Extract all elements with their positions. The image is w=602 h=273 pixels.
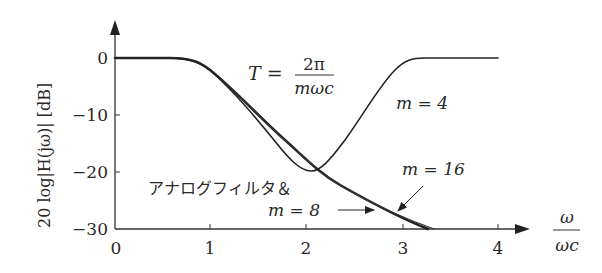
label-m8: m = 8	[268, 200, 320, 220]
period-numerator: 2π	[303, 54, 325, 74]
y-tick-minus20: −20	[72, 162, 108, 182]
x-tick-4: 4	[493, 238, 504, 258]
y-tick-labels: 0 −10 −20 −30	[72, 48, 108, 239]
arrow-m16-icon	[398, 186, 423, 211]
label-analog: アナログフィルタ＆	[148, 179, 292, 198]
y-axis-arrow-icon	[110, 20, 120, 35]
frequency-response-chart: 0 −10 −20 −30 0 1 2 3 4 20 log|H(jω)| [d…	[0, 0, 602, 273]
period-denominator: mωc	[294, 78, 334, 98]
x-axis-label-denominator: ωc	[555, 235, 579, 255]
label-m4: m = 4	[396, 93, 448, 113]
y-tick-minus10: −10	[72, 105, 108, 125]
x-tick-labels: 0 1 2 3 4	[111, 238, 504, 258]
x-axis-arrow-icon	[515, 224, 530, 234]
x-tick-2: 2	[301, 238, 312, 258]
x-tick-1: 1	[205, 238, 216, 258]
y-tick-minus30: −30	[72, 219, 108, 239]
period-formula: T = 2π mωc	[248, 54, 334, 98]
x-tick-0: 0	[111, 238, 122, 258]
axes	[110, 20, 530, 234]
y-tick-0: 0	[97, 48, 108, 68]
x-axis-label-numerator: ω	[560, 207, 574, 227]
y-axis-label: 20 log|H(jω)| [dB]	[35, 83, 54, 228]
x-tick-3: 3	[398, 238, 409, 258]
label-m16: m = 16	[402, 159, 465, 179]
x-axis-label: ω ωc	[553, 207, 580, 255]
period-lhs: T =	[248, 62, 283, 84]
